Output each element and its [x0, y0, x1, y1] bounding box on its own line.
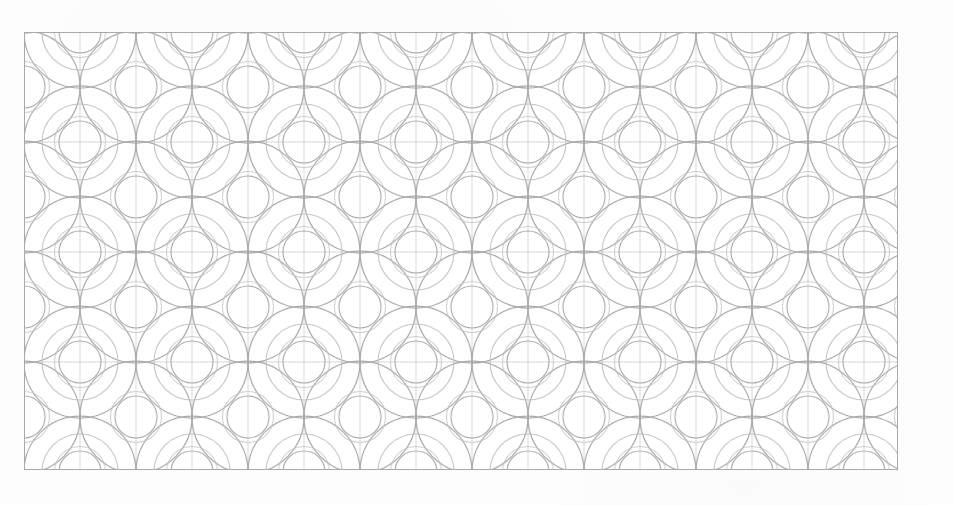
swatch-caption: Geometric Circle Lattice Pattern Swatch — [0, 0, 1, 1]
pattern-artwork — [24, 32, 898, 470]
pattern-panel — [24, 32, 898, 470]
pattern-swatch-canvas: Geometric Circle Lattice Pattern Swatch — [0, 0, 954, 505]
